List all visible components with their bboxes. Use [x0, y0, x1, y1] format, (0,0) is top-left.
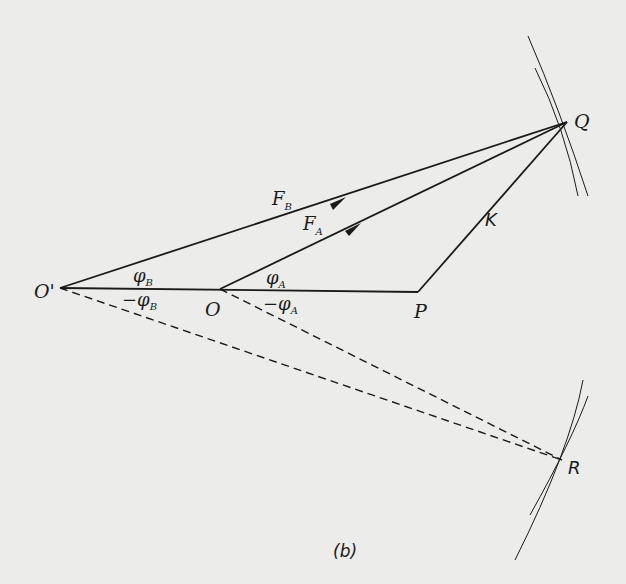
label-k: K — [485, 209, 498, 230]
label-r: R — [568, 457, 581, 478]
baseline-oprime-p — [60, 288, 418, 292]
segment-k — [418, 122, 567, 292]
dashed-o-r — [220, 289, 562, 460]
vector-diagram: O' O P Q R FB FA K φB −φB φA −φA (b) — [0, 0, 626, 584]
label-phi-a: φA — [266, 267, 286, 290]
label-phi-b: φB — [133, 265, 153, 288]
label-q: Q — [574, 110, 590, 132]
label-neg-phi-a: −φA — [263, 293, 298, 316]
arc-q-inner — [535, 68, 578, 196]
label-o: O — [205, 298, 221, 320]
dashed-oprime-r — [60, 288, 562, 460]
label-neg-phi-b: −φB — [122, 289, 157, 312]
arc-r-inner — [530, 396, 588, 515]
label-o-prime: O' — [34, 280, 55, 302]
label-f-b: FB — [271, 188, 292, 212]
label-p: P — [413, 300, 428, 322]
label-f-a: FA — [302, 213, 323, 237]
vector-f-b — [60, 122, 567, 288]
figure-caption: (b) — [333, 541, 357, 561]
